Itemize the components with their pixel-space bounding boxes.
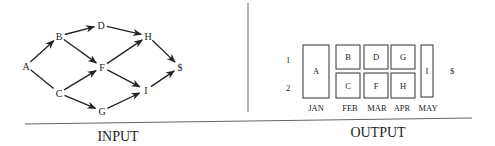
box-label-D: D xyxy=(373,52,379,62)
node-G: G xyxy=(98,106,105,117)
edge-F-H xyxy=(107,40,142,64)
box-label-I: I xyxy=(426,66,429,76)
month-feb: FEB xyxy=(342,103,358,113)
month-labels: JAN FEB MAR APR MAY xyxy=(308,103,437,113)
node-B: B xyxy=(56,31,63,42)
node-A: A xyxy=(22,61,30,72)
month-jan: JAN xyxy=(308,103,324,113)
box-label-C: C xyxy=(345,81,351,91)
edge-A-C xyxy=(31,70,54,89)
edge-B-D xyxy=(65,27,94,35)
node-H: H xyxy=(144,31,151,42)
output-title: OUTPUT xyxy=(350,125,406,140)
diagram-canvas: ABCDFGHI$ 1 2 A B C D F G H I $ JAN FEB … xyxy=(0,0,495,146)
node-D: D xyxy=(97,20,104,31)
edge-G-I xyxy=(107,93,139,108)
box-label-B: B xyxy=(345,52,351,62)
edge-I-$ xyxy=(151,71,174,87)
row-label-1: 1 xyxy=(286,55,290,65)
input-title: INPUT xyxy=(97,129,139,144)
node-I: I xyxy=(144,85,147,96)
edge-F-I xyxy=(107,70,140,87)
terminal-label: $ xyxy=(450,66,454,76)
schedule-boxes xyxy=(303,45,433,98)
box-label-H: H xyxy=(400,81,406,91)
month-apr: APR xyxy=(394,103,411,113)
node-terminal: $ xyxy=(178,62,183,73)
row-labels: 1 2 xyxy=(286,55,290,93)
month-may: MAY xyxy=(418,103,437,113)
horizontal-divider xyxy=(25,118,472,124)
edge-B-F xyxy=(64,40,96,63)
box-label-G: G xyxy=(400,52,406,62)
edge-A-B xyxy=(30,41,53,62)
edge-C-G xyxy=(65,95,96,108)
month-mar: MAR xyxy=(367,103,387,113)
node-C: C xyxy=(56,88,63,99)
row-label-2: 2 xyxy=(286,83,290,93)
network-nodes: ABCDFGHI$ xyxy=(22,20,182,117)
edge-D-H xyxy=(107,26,141,34)
box-label-A: A xyxy=(313,66,320,76)
box-label-F: F xyxy=(374,81,379,91)
edge-C-F xyxy=(64,71,96,90)
node-F: F xyxy=(99,62,105,73)
edge-H-$ xyxy=(152,40,175,62)
